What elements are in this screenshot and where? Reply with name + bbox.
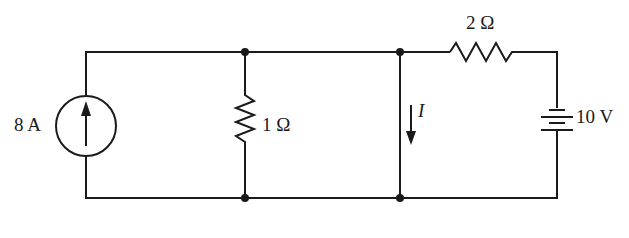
resistor-1-ohm-symbol xyxy=(236,52,254,198)
junction-node xyxy=(396,48,404,56)
current-label: I xyxy=(418,100,424,122)
current-source-symbol xyxy=(56,96,116,156)
resistor-2-label: 2 Ω xyxy=(466,12,494,34)
voltage-source-label: 10 V xyxy=(576,106,613,128)
resistor-2-ohm-symbol xyxy=(450,43,557,108)
current-arrow-icon xyxy=(406,105,416,145)
resistor-1-label: 1 Ω xyxy=(262,114,290,136)
junction-node xyxy=(241,48,249,56)
battery-symbol xyxy=(541,110,573,130)
right-wire xyxy=(86,130,557,198)
circuit-schematic xyxy=(0,0,629,238)
junction-node xyxy=(396,194,404,202)
junction-node xyxy=(241,194,249,202)
arrow-up-icon xyxy=(81,101,91,116)
top-wire xyxy=(86,52,450,96)
circuit-diagram: 8 A 1 Ω 2 Ω 10 V I xyxy=(0,0,629,238)
current-source-label: 8 A xyxy=(14,114,41,136)
